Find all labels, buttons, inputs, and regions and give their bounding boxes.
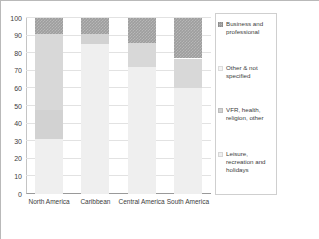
legend-swatch-icon <box>218 66 223 71</box>
y-tick-label: 60 <box>14 85 22 92</box>
bar-segment[interactable] <box>128 18 156 43</box>
legend-item[interactable]: Leisure, recreation and holidays <box>218 150 274 174</box>
legend-label: Other & not specified <box>226 64 274 80</box>
legend-swatch-icon <box>218 22 223 27</box>
chart-frame: 0102030405060708090100 North AmericaCari… <box>0 0 280 219</box>
legend-label: Leisure, recreation and holidays <box>226 150 274 174</box>
bar-segment[interactable] <box>81 18 109 34</box>
bar-group[interactable] <box>128 18 156 194</box>
bar-segment[interactable] <box>128 43 156 68</box>
bar-segment[interactable] <box>174 18 202 58</box>
bar-group[interactable] <box>35 18 63 194</box>
bar-segment[interactable] <box>81 34 109 45</box>
legend-swatch-icon <box>218 152 223 157</box>
y-tick-label: 90 <box>14 32 22 39</box>
y-tick-label: 40 <box>14 120 22 127</box>
y-axis: 0102030405060708090100 <box>1 1 26 201</box>
x-tick-label: Caribbean <box>69 197 121 206</box>
bar-segment[interactable] <box>81 44 109 194</box>
y-tick-label: 0 <box>18 191 22 198</box>
x-tick-label: North America <box>23 197 75 206</box>
plot-area <box>26 18 211 194</box>
bar-segment[interactable] <box>174 59 202 89</box>
x-tick-label: South America <box>162 197 214 206</box>
y-tick-label: 50 <box>14 103 22 110</box>
x-tick-label: Central America <box>116 197 168 206</box>
bar-segment[interactable] <box>35 34 63 110</box>
bar-segment[interactable] <box>35 139 63 194</box>
legend-label: VFR, health, religion, other <box>226 106 274 122</box>
bar-segment[interactable] <box>35 110 63 140</box>
y-tick-label: 100 <box>10 15 22 22</box>
y-tick-label: 80 <box>14 50 22 57</box>
y-tick-label: 10 <box>14 173 22 180</box>
y-tick-label: 20 <box>14 155 22 162</box>
legend-item[interactable]: VFR, health, religion, other <box>218 106 274 122</box>
bar-group[interactable] <box>174 18 202 194</box>
bar-segment[interactable] <box>174 88 202 194</box>
legend-item[interactable]: Business and professional <box>218 20 274 36</box>
bar-group[interactable] <box>81 18 109 194</box>
bar-segment[interactable] <box>128 67 156 194</box>
legend-label: Business and professional <box>226 20 274 36</box>
legend-item[interactable]: Other & not specified <box>218 64 274 80</box>
x-axis: North AmericaCaribbeanCentral AmericaSou… <box>26 197 211 215</box>
y-tick-label: 30 <box>14 138 22 145</box>
legend-swatch-icon <box>218 108 223 113</box>
y-tick-label: 70 <box>14 67 22 74</box>
chart-legend: Business and professionalOther & not spe… <box>215 13 277 195</box>
bar-segment[interactable] <box>35 18 63 34</box>
